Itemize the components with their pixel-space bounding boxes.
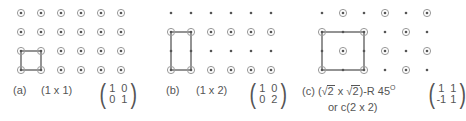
panel-c-label: (c) (302, 85, 315, 97)
degree-sign: O (390, 84, 395, 91)
substrate-atom (170, 12, 173, 15)
sqrt-arg: 2 (351, 85, 359, 97)
substrate-atom (342, 12, 345, 15)
substrate-atom (100, 31, 103, 34)
substrate-atom (342, 50, 345, 53)
substrate-atom (384, 69, 387, 72)
substrate-atom (210, 50, 213, 53)
substrate-atom (60, 69, 63, 72)
unit-cell-outline (171, 32, 191, 70)
substrate-atom (270, 50, 273, 53)
substrate-atom (210, 69, 213, 72)
substrate-atom (170, 31, 173, 34)
substrate-atom (60, 31, 63, 34)
substrate-atom (363, 12, 366, 15)
substrate-atom (40, 69, 43, 72)
matrix-cell: 0 (107, 94, 117, 105)
panel-a-notation: (1 x 1) (41, 84, 72, 96)
substrate-atom (321, 69, 324, 72)
substrate-atom (40, 31, 43, 34)
substrate-atom (230, 31, 233, 34)
surface-lattice-diagram (0, 0, 466, 121)
substrate-atom (250, 31, 253, 34)
substrate-atom (190, 50, 193, 53)
panel-c-matrix: ( 1 1 -1 1 ) (427, 80, 466, 108)
substrate-atom (20, 50, 23, 53)
substrate-atom (363, 31, 366, 34)
substrate-atom (60, 12, 63, 15)
substrate-atom (40, 12, 43, 15)
substrate-atom (405, 31, 408, 34)
panel-b-matrix: ( 1 0 0 2 ) (248, 80, 289, 108)
substrate-atom (80, 69, 83, 72)
substrate-atom (250, 12, 253, 15)
substrate-atom (80, 50, 83, 53)
substrate-atom (250, 50, 253, 53)
substrate-atom (190, 69, 193, 72)
substrate-atom (426, 12, 429, 15)
times-sign: x (338, 85, 344, 97)
substrate-atom (270, 31, 273, 34)
substrate-atom (20, 12, 23, 15)
substrate-atom (230, 69, 233, 72)
substrate-atom (384, 50, 387, 53)
right-paren: ) (460, 80, 466, 108)
substrate-atom (363, 50, 366, 53)
substrate-atom (120, 69, 123, 72)
substrate-atom (321, 50, 324, 53)
substrate-atom (80, 12, 83, 15)
panel-c-alt-notation: or c(2 x 2) (328, 101, 378, 113)
substrate-atom (342, 31, 345, 34)
rotation-suffix: )-R 45 (360, 85, 391, 97)
substrate-atom (405, 50, 408, 53)
substrate-atom (60, 50, 63, 53)
matrix-cell: 1 (448, 94, 458, 105)
substrate-atom (405, 12, 408, 15)
left-paren: ( (428, 80, 435, 108)
panel-a-matrix: ( 1 0 0 1 ) (98, 80, 139, 108)
substrate-atom (363, 69, 366, 72)
matrix-cell: 2 (269, 94, 279, 105)
substrate-atom (80, 31, 83, 34)
matrix-cell: 0 (257, 94, 267, 105)
substrate-atom (20, 31, 23, 34)
substrate-atom (270, 12, 273, 15)
sqrt-arg: 2 (327, 85, 335, 97)
substrate-atom (230, 50, 233, 53)
matrix-cell: 1 (119, 94, 129, 105)
substrate-atom (426, 69, 429, 72)
right-paren: ) (131, 80, 138, 108)
substrate-atom (190, 31, 193, 34)
substrate-atom (120, 31, 123, 34)
substrate-atom (100, 12, 103, 15)
matrix-cell: -1 (436, 94, 446, 105)
panel-b-notation: (1 x 2) (196, 84, 227, 96)
substrate-atom (342, 69, 345, 72)
substrate-atom (426, 50, 429, 53)
right-paren: ) (281, 80, 288, 108)
substrate-atom (230, 12, 233, 15)
substrate-atom (405, 69, 408, 72)
substrate-atom (120, 12, 123, 15)
substrate-atom (40, 50, 43, 53)
panel-a-label: (a) (13, 84, 26, 96)
substrate-atom (170, 50, 173, 53)
substrate-atom (210, 31, 213, 34)
substrate-atom (270, 69, 273, 72)
substrate-atom (210, 12, 213, 15)
panel-c-notation: (c) (√2 x √2)-R 45O (302, 84, 396, 97)
substrate-atom (384, 31, 387, 34)
substrate-atom (384, 12, 387, 15)
substrate-atom (100, 50, 103, 53)
substrate-atom (100, 69, 103, 72)
substrate-atom (426, 31, 429, 34)
substrate-atom (20, 69, 23, 72)
left-paren: ( (249, 80, 256, 108)
substrate-atom (120, 50, 123, 53)
panel-b-label: (b) (166, 84, 179, 96)
substrate-atom (321, 31, 324, 34)
substrate-atom (250, 69, 253, 72)
substrate-atom (321, 12, 324, 15)
substrate-atom (190, 12, 193, 15)
substrate-atom (170, 69, 173, 72)
